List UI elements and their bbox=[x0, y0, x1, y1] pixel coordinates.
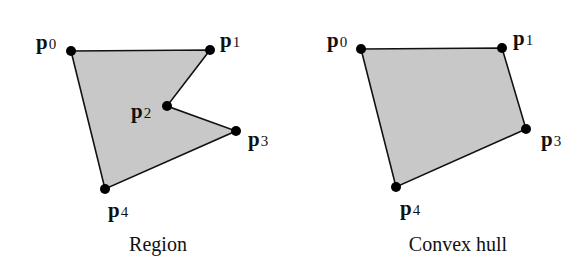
vertex-dot-p1 bbox=[205, 45, 215, 55]
region-figure: p0p1p2p3p4 Region bbox=[36, 28, 268, 256]
convex-hull-polygon bbox=[361, 48, 526, 187]
region-polygon bbox=[71, 50, 236, 189]
vertex-label-p3: p3 bbox=[248, 127, 268, 151]
vertex-dot-p4 bbox=[100, 184, 110, 194]
vertex-label-p1: p1 bbox=[513, 26, 533, 50]
convex-hull-figure: p0p1p3p4 Convex hull bbox=[327, 26, 561, 255]
vertex-dot-p2 bbox=[162, 101, 172, 111]
vertex-dot-p0 bbox=[356, 44, 366, 54]
vertex-label-p3: p3 bbox=[541, 127, 561, 151]
vertex-label-p1: p1 bbox=[220, 28, 240, 52]
diagram-canvas: p0p1p2p3p4 Region p0p1p3p4 Convex hull bbox=[0, 0, 588, 274]
region-caption: Region bbox=[129, 233, 187, 256]
vertex-dot-p0 bbox=[66, 46, 76, 56]
vertex-label-p4: p4 bbox=[108, 198, 129, 222]
vertex-dot-p3 bbox=[521, 124, 531, 134]
vertex-label-p0: p0 bbox=[36, 30, 56, 54]
vertex-dot-p1 bbox=[497, 43, 507, 53]
vertex-dot-p3 bbox=[231, 126, 241, 136]
vertex-label-p4: p4 bbox=[400, 196, 421, 220]
convex-hull-caption: Convex hull bbox=[409, 233, 508, 255]
vertex-label-p0: p0 bbox=[327, 28, 347, 52]
vertex-dot-p4 bbox=[391, 182, 401, 192]
